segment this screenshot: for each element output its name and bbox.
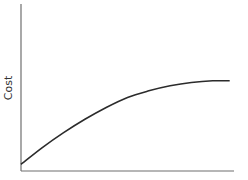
chart: Cost	[0, 0, 248, 180]
y-axis-label: Cost	[2, 75, 15, 100]
series-line-cost	[21, 81, 230, 165]
